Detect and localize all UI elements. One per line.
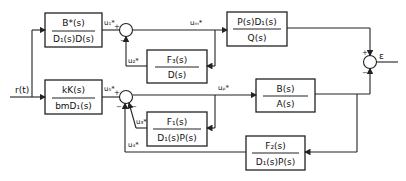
svg-text:+: + bbox=[362, 49, 368, 57]
summing-junction-1 bbox=[120, 24, 133, 37]
signal-u2-label: u₂* bbox=[128, 57, 139, 65]
signal-u3-label: u₃* bbox=[136, 118, 147, 126]
block-kk-numerator: kK(s) bbox=[62, 85, 85, 95]
block-b-star-denominator: D₁(s)D(s) bbox=[53, 34, 94, 44]
svg-text:+: + bbox=[114, 23, 120, 31]
block-f3: F₃(s) D(s) bbox=[147, 50, 207, 83]
block-b-over-a-numerator: B(s) bbox=[277, 84, 295, 94]
svg-text:−: − bbox=[120, 37, 126, 45]
block-plant-q: P(s)D₁(s) Q(s) bbox=[227, 12, 287, 46]
svg-text:−: − bbox=[116, 103, 122, 111]
block-plant-q-numerator: P(s)D₁(s) bbox=[237, 17, 276, 27]
signal-um-label: uₘ* bbox=[190, 19, 203, 27]
block-diagram: B*(s) D₁(s)D(s) kK(s) bmD₁(s) P(s)D₁(s) … bbox=[0, 0, 406, 181]
block-f3-numerator: F₃(s) bbox=[167, 55, 188, 65]
block-f2: F₂(s) D₁(s)P(s) bbox=[246, 136, 305, 170]
block-f1-numerator: F₁(s) bbox=[167, 117, 188, 127]
block-b-star: B*(s) D₁(s)D(s) bbox=[45, 13, 102, 47]
signal-up-label: uₚ* bbox=[218, 84, 229, 92]
block-f1: F₁(s) D₁(s)P(s) bbox=[147, 112, 207, 146]
block-f1-denominator: D₁(s)P(s) bbox=[157, 133, 196, 143]
svg-text:−: − bbox=[131, 103, 137, 111]
block-kk: kK(s) bmD₁(s) bbox=[45, 80, 102, 114]
signal-u4-label: u₄* bbox=[128, 141, 139, 149]
svg-text:+: + bbox=[114, 89, 120, 97]
block-b-over-a-denominator: A(s) bbox=[277, 99, 295, 109]
input-label: r(t) bbox=[15, 85, 29, 95]
block-b-star-numerator: B*(s) bbox=[62, 18, 84, 28]
block-f2-numerator: F₂(s) bbox=[265, 141, 286, 151]
block-plant-q-denominator: Q(s) bbox=[248, 33, 267, 43]
output-epsilon-label: ε bbox=[379, 51, 384, 61]
block-f2-denominator: D₁(s)P(s) bbox=[256, 157, 295, 167]
block-b-over-a: B(s) A(s) bbox=[256, 79, 315, 112]
block-f3-denominator: D(s) bbox=[168, 70, 187, 80]
summing-junction-output bbox=[364, 56, 377, 69]
block-kk-denominator: bmD₁(s) bbox=[55, 101, 92, 111]
summing-junction-2 bbox=[120, 91, 133, 104]
svg-text:−: − bbox=[362, 69, 368, 77]
